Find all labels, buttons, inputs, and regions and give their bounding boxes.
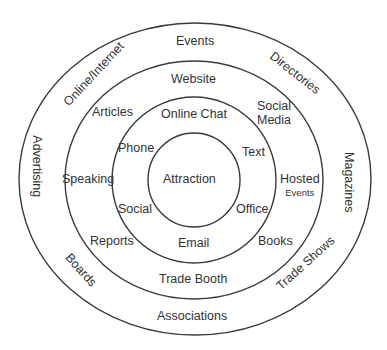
ring1-upper-left-label: Phone (118, 142, 154, 155)
ring2-bottom-label: Trade Booth (159, 273, 227, 286)
ring2-upper-left-label: Articles (92, 106, 133, 119)
ring3-top-label: Events (176, 35, 214, 48)
ring2-lower-right-label: Books (258, 235, 293, 248)
ring2-right-line2: Events (280, 188, 320, 199)
ring1-top-label: Online Chat (161, 108, 227, 121)
ring3-right-label: Magazines (343, 152, 356, 212)
ring1-lower-left-label: Social (118, 203, 152, 216)
ring3-bottom-label: Associations (157, 310, 227, 323)
ring2-right-label: Hosted Events (280, 172, 320, 199)
ring1-bottom-label: Email (178, 237, 209, 250)
ring2-right-line1: Hosted (280, 172, 320, 186)
ring1-upper-right-label: Text (242, 146, 265, 159)
ring3-left-label: Advertising (31, 135, 44, 197)
ring2-upper-right-line1: Social (257, 99, 291, 113)
ring2-lower-left-label: Reports (90, 235, 134, 248)
core-label: Attraction (163, 173, 216, 186)
ring2-upper-right-line2: Media (257, 113, 291, 127)
concentric-rings-diagram: Attraction Online Chat Phone Text Social… (0, 0, 387, 350)
ring2-upper-right-label: Social Media (257, 99, 291, 128)
ring2-left-label: Speaking (62, 173, 114, 186)
ring1-lower-right-label: Office (236, 203, 268, 216)
ring2-top-label: Website (171, 73, 216, 86)
